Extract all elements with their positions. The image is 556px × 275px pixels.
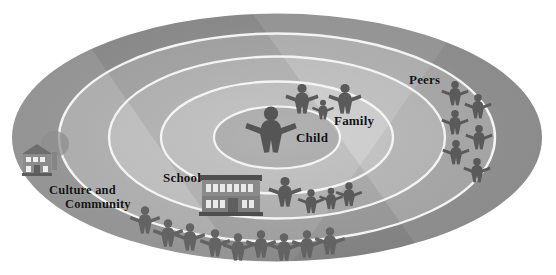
diagram-canvas [0, 0, 556, 275]
label-peers: Peers [409, 72, 440, 88]
label-child: Child [296, 130, 328, 146]
label-culture-line1: Culture and [49, 183, 116, 197]
label-culture-and-community: Culture andCommunity [49, 183, 131, 211]
label-school: School [163, 170, 201, 186]
ecological-systems-diagram: Child Family Peers School Culture andCom… [0, 0, 556, 275]
school-building-icon [199, 175, 263, 216]
label-culture-line2: Community [49, 197, 131, 211]
label-family: Family [334, 113, 374, 129]
